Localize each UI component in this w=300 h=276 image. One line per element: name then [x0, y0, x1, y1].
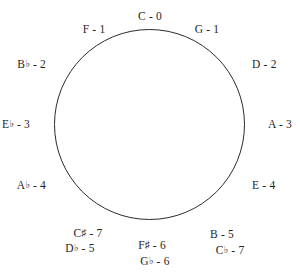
- key-label-eflat: E♭ - 3: [2, 117, 30, 131]
- key-label-f: F - 1: [83, 23, 106, 36]
- key-label-csharp: C♯ - 7: [73, 226, 102, 240]
- key-label-g: G - 1: [195, 23, 220, 36]
- circle-outline: [54, 29, 245, 220]
- key-label-gflat: G♭ - 6: [140, 254, 169, 268]
- key-label-c: C - 0: [138, 10, 162, 23]
- key-label-dflat: D♭ - 5: [65, 241, 94, 255]
- key-label-d: D - 2: [252, 58, 277, 71]
- key-label-fsharp: F♯ - 6: [138, 238, 166, 252]
- key-label-cflat: C♭ - 7: [216, 243, 245, 257]
- key-label-b: B - 5: [210, 228, 234, 241]
- key-label-e: E - 4: [252, 179, 275, 192]
- circle-of-fifths-diagram: C - 0G - 1D - 2A - 3E - 4B - 5C♭ - 7F♯ -…: [0, 0, 300, 276]
- key-label-a: A - 3: [268, 118, 292, 131]
- key-label-bflat: B♭ - 2: [17, 57, 46, 71]
- key-label-aflat: A♭ - 4: [17, 178, 46, 192]
